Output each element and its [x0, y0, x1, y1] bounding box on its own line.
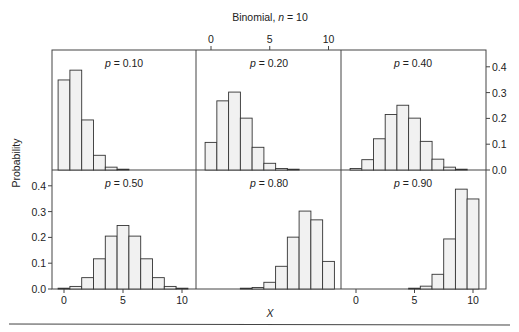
bar [164, 286, 176, 289]
x-tick-label: 10 [467, 294, 479, 306]
panel-0-40 [350, 105, 467, 170]
y-axis-label: Probability [10, 138, 22, 188]
x-tick-label: 5 [267, 33, 273, 45]
bar [299, 211, 311, 289]
bar [264, 163, 276, 170]
bottom-x-axis-right: 0510 [353, 289, 479, 306]
x-tick-label: 0 [353, 294, 359, 306]
bar [444, 167, 456, 170]
x-tick-label: 10 [323, 33, 335, 45]
panel-0-10 [58, 70, 129, 170]
bar [311, 220, 323, 289]
x-tick-label: 0 [208, 33, 214, 45]
bar [205, 142, 217, 170]
panel-label: p = 0.20 [249, 57, 288, 69]
y-tick-label: 0.1 [31, 257, 46, 269]
panel-0-50 [58, 226, 188, 289]
bottom-x-axis-left: 0510 [61, 289, 188, 306]
x-tick-label: 5 [120, 294, 126, 306]
bar [287, 237, 299, 289]
bar [82, 278, 94, 289]
bar [467, 199, 479, 289]
bar [94, 259, 106, 289]
x-tick-label: 0 [61, 294, 67, 306]
bar [252, 147, 264, 170]
bar [82, 120, 94, 170]
panel-0-20 [205, 92, 299, 170]
panel-label: p = 0.50 [104, 177, 143, 189]
top-x-axis: 0510 [208, 33, 334, 50]
chart-title: Binomial, n = 10 [232, 11, 308, 23]
bar [420, 286, 432, 289]
bar [94, 155, 106, 170]
bar [323, 261, 335, 289]
left-y-axis: 0.00.10.20.30.4 [31, 180, 52, 295]
bar [444, 239, 456, 289]
panel-label: p = 0.90 [393, 177, 432, 189]
bar [70, 70, 82, 170]
x-tick-label: 10 [176, 294, 188, 306]
bar [455, 189, 467, 289]
panel-0-80 [240, 211, 334, 289]
bar [432, 274, 444, 289]
bar [350, 168, 362, 170]
bar [374, 139, 386, 170]
bar [362, 160, 374, 170]
panel-label: p = 0.10 [104, 57, 143, 69]
bar [58, 80, 70, 170]
y-tick-label: 0.2 [492, 112, 507, 124]
bar [264, 282, 276, 289]
panel-0-90 [409, 189, 479, 289]
y-tick-label: 0.0 [492, 164, 507, 176]
bar [287, 169, 299, 170]
y-tick-label: 0.1 [492, 138, 507, 150]
bar [105, 167, 117, 170]
bar [176, 288, 188, 289]
y-tick-label: 0.2 [31, 231, 46, 243]
panel-label: p = 0.80 [249, 177, 288, 189]
bar [455, 169, 467, 170]
bar [240, 288, 252, 289]
bar [240, 118, 252, 170]
binomial-chart: Binomial, n = 10 Probability X p = 0.10p… [0, 0, 519, 332]
bar [252, 287, 264, 289]
bar [409, 288, 421, 289]
x-axis-label: X [265, 307, 274, 319]
y-tick-label: 0.0 [31, 283, 46, 295]
panel-label: p = 0.40 [393, 57, 432, 69]
y-tick-label: 0.4 [492, 61, 507, 73]
bar [409, 118, 421, 170]
right-y-axis: 0.00.10.20.30.4 [486, 61, 507, 176]
y-tick-label: 0.4 [31, 180, 46, 192]
bar [141, 259, 153, 289]
bar [397, 105, 409, 170]
bar [117, 226, 129, 289]
bar [217, 101, 229, 170]
bar [432, 159, 444, 170]
bar [229, 92, 241, 170]
bar [385, 115, 397, 170]
bar [105, 236, 117, 289]
x-tick-label: 5 [412, 294, 418, 306]
bar [420, 141, 432, 170]
bar [129, 236, 141, 289]
caption-separator [9, 324, 510, 325]
bar [276, 266, 288, 289]
bar [276, 168, 288, 170]
y-tick-label: 0.3 [31, 206, 46, 218]
bar [153, 278, 165, 289]
y-tick-label: 0.3 [492, 87, 507, 99]
bar [117, 169, 129, 170]
bar [70, 286, 82, 289]
bar [58, 288, 70, 289]
